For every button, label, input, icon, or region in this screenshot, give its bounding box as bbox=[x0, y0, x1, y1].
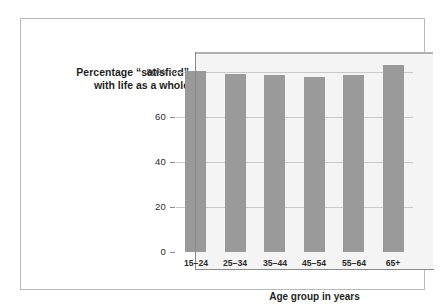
bar bbox=[343, 75, 364, 252]
y-tick-label: 60 bbox=[114, 111, 166, 122]
figure-frame: Percentage “satisfied” with life as a wh… bbox=[20, 18, 425, 290]
y-tick-mark bbox=[170, 117, 175, 118]
y-tick-mark bbox=[170, 252, 175, 253]
bar bbox=[383, 65, 404, 252]
y-tick-label: 80% bbox=[114, 66, 166, 77]
gridline bbox=[176, 207, 413, 208]
bar bbox=[304, 77, 325, 252]
y-axis-line bbox=[195, 52, 196, 270]
bar bbox=[225, 74, 246, 252]
x-axis-label: Age group in years bbox=[196, 291, 433, 302]
chart-figure: Percentage “satisfied” with life as a wh… bbox=[0, 0, 447, 307]
x-tick-label: 65+ bbox=[369, 258, 417, 268]
x-axis-line bbox=[195, 269, 434, 270]
y-tick-mark bbox=[170, 162, 175, 163]
y-tick-mark bbox=[170, 72, 175, 73]
y-tick-label: 0 bbox=[114, 246, 166, 257]
gridline bbox=[176, 72, 413, 73]
gridline bbox=[176, 117, 413, 118]
y-tick-label: 20 bbox=[114, 201, 166, 212]
chart-title-line-2: with life as a whole bbox=[49, 79, 189, 92]
bar bbox=[264, 75, 285, 252]
gridline bbox=[176, 162, 413, 163]
y-tick-mark bbox=[170, 207, 175, 208]
y-tick-label: 40 bbox=[114, 156, 166, 167]
